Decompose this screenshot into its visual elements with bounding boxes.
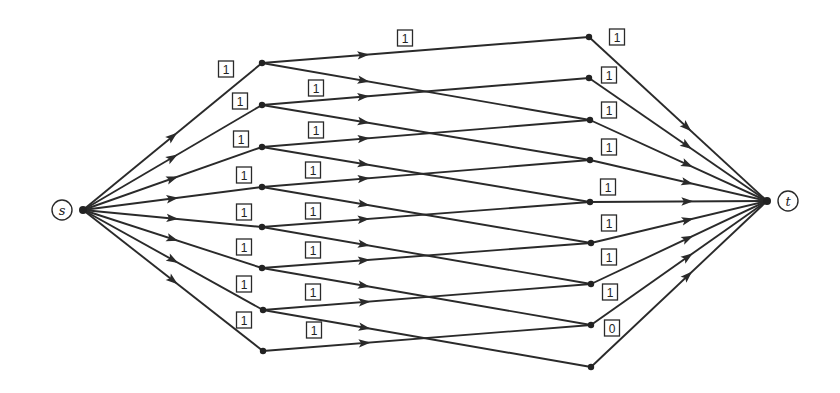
source-node: s [52, 200, 72, 220]
vertex-R6 [588, 240, 594, 246]
vertex-R2 [586, 75, 592, 81]
flow-label-R5-t: 1 [601, 179, 616, 195]
sink-junction [763, 197, 771, 205]
flow-label-R4-t: 1 [602, 139, 617, 155]
flow-network-diagram: 1111111111111111111111110 s t [0, 0, 840, 393]
vertex-L2 [259, 102, 265, 108]
flow-value: 1 [310, 164, 317, 178]
flow-label-R3-t: 1 [602, 102, 617, 118]
vertex-R5 [587, 199, 593, 205]
arrowhead-icon [165, 151, 180, 164]
flow-value: 1 [606, 69, 613, 83]
flow-value: 1 [313, 124, 320, 138]
flow-value: 1 [241, 278, 248, 292]
flow-label-s-L3: 1 [234, 131, 249, 147]
flow-label-R7-t: 1 [602, 249, 617, 265]
arrowhead-icon [680, 139, 695, 153]
vertex-L6 [259, 265, 265, 271]
sink-label: t [785, 194, 791, 209]
flow-label-s-L1: 1 [219, 61, 234, 77]
vertex-R3 [587, 117, 593, 123]
source-label: s [59, 203, 66, 218]
sink-node: t [778, 191, 798, 211]
flow-value: 1 [237, 95, 244, 109]
vertex-R8 [588, 322, 594, 328]
flow-value: 1 [313, 82, 320, 96]
edges-layer [83, 37, 767, 367]
flow-label-R1-t: 1 [610, 29, 625, 45]
flow-value: 1 [606, 104, 613, 118]
edge-R5-t [590, 201, 767, 202]
vertex-R7 [588, 281, 594, 287]
flow-label-L8-R8: 1 [307, 322, 322, 338]
flow-value: 1 [238, 133, 245, 147]
arrowhead-icon [165, 233, 179, 245]
flow-label-s-L2: 1 [233, 93, 248, 109]
arrowhead-icon [681, 177, 695, 188]
arrowhead-icon [680, 250, 695, 264]
vertex-R1 [586, 34, 592, 40]
flow-value: 1 [241, 169, 248, 183]
flow-label-L5-R5: 1 [306, 203, 321, 219]
flow-value: 1 [241, 314, 248, 328]
flow-value: 1 [310, 244, 317, 258]
flow-value: 1 [223, 63, 230, 77]
arrowhead-icon [166, 253, 181, 266]
flow-value: 0 [609, 322, 616, 336]
edge-R1-t [589, 37, 767, 201]
vertex-L7 [260, 307, 266, 313]
edge-R4-t [590, 160, 767, 201]
vertex-L4 [259, 184, 265, 190]
flow-label-L1-R1: 1 [398, 30, 413, 46]
arrowhead-icon [681, 214, 695, 225]
flow-value: 1 [241, 241, 248, 255]
flow-label-L6-R6: 1 [306, 242, 321, 258]
edge-R7-t [591, 201, 767, 284]
flow-label-s-L4: 1 [237, 167, 252, 183]
edge-R6-t [591, 201, 767, 243]
flow-value: 1 [402, 32, 409, 46]
flow-label-s-L8: 1 [237, 312, 252, 328]
flow-value: 1 [606, 251, 613, 265]
flow-label-R2-t: 1 [602, 67, 617, 83]
flow-value: 1 [605, 181, 612, 195]
arrowhead-icon [680, 158, 694, 171]
flow-value: 1 [310, 286, 317, 300]
vertex-L5 [259, 224, 265, 230]
flow-label-L2-R2: 1 [309, 80, 324, 96]
flow-value: 1 [311, 324, 318, 338]
flow-label-s-L6: 1 [237, 239, 252, 255]
edge-R8-t [591, 201, 767, 325]
edge-L1-R1 [262, 37, 589, 63]
edge-R3-t [590, 120, 767, 201]
flow-label-R6-t: 1 [602, 215, 617, 231]
vertex-L8 [260, 348, 266, 354]
flow-label-s-L7: 1 [237, 276, 252, 292]
flow-labels-layer: 1111111111111111111111110 [219, 29, 625, 338]
flow-label-L3-R3: 1 [309, 122, 324, 138]
flow-value: 1 [614, 31, 621, 45]
vertex-R9 [588, 364, 594, 370]
vertex-L3 [259, 144, 265, 150]
flow-value: 1 [241, 206, 248, 220]
vertex-R4 [587, 157, 593, 163]
flow-label-L7-R7: 1 [306, 284, 321, 300]
flow-label-R8-t: 1 [603, 284, 618, 300]
vertex-L1 [259, 60, 265, 66]
flow-value: 1 [606, 217, 613, 231]
flow-value: 1 [606, 141, 613, 155]
flow-label-R9-t: 0 [605, 320, 620, 336]
flow-value: 1 [310, 205, 317, 219]
arrowhead-icon [165, 173, 179, 185]
flow-value: 1 [607, 286, 614, 300]
source-junction [79, 206, 87, 214]
flow-label-L4-R4: 1 [306, 162, 321, 178]
arrowhead-icon [681, 232, 695, 245]
flow-label-s-L5: 1 [237, 204, 252, 220]
